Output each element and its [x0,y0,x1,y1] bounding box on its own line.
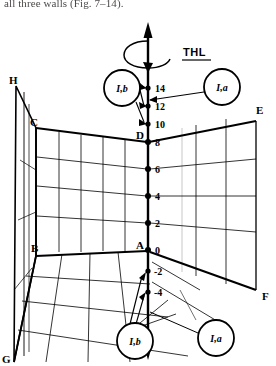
floor-right-line-3 [180,290,196,320]
left-wall [36,128,147,256]
tick-dot-6 [145,166,151,172]
floor-left-edge [14,256,36,362]
vertex-label-D: D [136,129,144,141]
tick-label-0: 0 [155,245,160,256]
right-wall-hline-1 [150,159,256,169]
tick-label-neg4: -4 [154,287,162,298]
floor-hline-3 [18,330,188,356]
tick-dot-0 [145,247,151,253]
right-wall-top-edge [149,121,256,142]
tick-dot-2 [145,220,151,226]
thl-label-group: THL [182,46,211,60]
vertex-label-B: B [31,242,39,254]
room-axis-diagram: 14 12 10 8 6 4 2 0 -2 -4 THL H C D E B A… [0,0,276,366]
right-wall-bottom-edge [150,252,256,290]
callout-ib-upper-label: I,b [115,83,127,94]
vertex-label-H: H [9,74,18,86]
tick-dot-neg4 [145,289,150,294]
right-wall-hline-3 [150,223,256,232]
left-wall-hline-1 [37,157,147,169]
vertex-label-A: A [136,239,144,251]
vertex-label-G: G [2,353,11,365]
tick-dot-neg2 [145,268,150,273]
tick-label-neg2: -2 [154,266,162,277]
tick-label-8: 8 [155,137,160,148]
callout-ib-lower-label: I,b [128,336,140,347]
left-wall-bottom-edge [36,251,147,256]
axis-tick-labels: 14 12 10 8 6 4 2 0 -2 -4 [154,83,165,298]
tick-label-10: 10 [155,119,165,130]
figure-page: all three walls (Fig. 7–14). [0,0,276,366]
thl-label: THL [183,46,206,58]
tick-dot-8 [145,139,151,145]
callout-ia-upper[interactable]: I,a [204,69,240,105]
left-wall-hline-2 [37,186,147,196]
floor-vline-2 [88,253,90,362]
left-panel-hatch-1 [20,160,36,170]
vertex-labels: H C D E B A F G [2,74,269,365]
floor-hline-1 [26,276,150,284]
vertex-label-C: C [30,116,38,128]
floor-hline-2 [22,301,168,317]
floor-vline-1 [46,254,62,362]
vertex-label-F: F [262,290,269,302]
tick-label-4: 4 [155,191,160,202]
leader-ia-lower [150,312,198,333]
callout-ib-upper[interactable]: I,b [104,70,140,106]
leader-ib-lower-floor-1 [140,300,168,323]
callout-ia-lower[interactable]: I,a [198,320,234,356]
callout-leader-lines [130,83,204,333]
callout-ia-lower-label: I,a [209,333,221,344]
vertex-label-E: E [256,104,263,116]
left-wall-hline-3 [37,216,147,223]
axis-arrow-up [144,22,153,38]
tick-label-2: 2 [155,218,160,229]
right-wall [149,119,256,290]
tick-label-12: 12 [155,101,165,112]
leader-ib-lower-arrow-neg4 [139,292,146,301]
tick-label-14: 14 [155,83,165,94]
left-panel-hatch-2 [18,212,36,220]
left-wall-top-edge [36,128,147,142]
callout-ib-lower[interactable]: I,b [117,323,153,359]
leader-ib-lower-arrow-neg2 [139,272,146,281]
tick-dot-4 [145,193,151,199]
callout-ia-upper-label: I,a [215,82,227,93]
tick-label-6: 6 [155,164,160,175]
